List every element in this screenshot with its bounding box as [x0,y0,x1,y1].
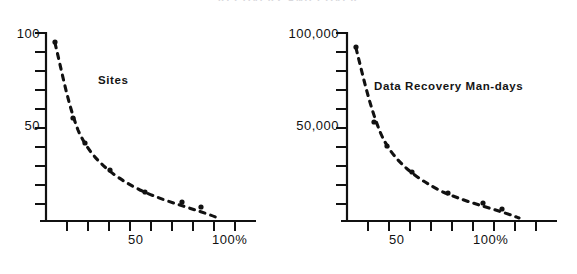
mandays-data-points [353,44,504,211]
chart-panel-mandays: 100,000 50,000 50 100% Data Recovery Man… [261,0,549,274]
mandays-x-ticks [368,221,536,231]
sites-series-label: Sites [98,74,129,86]
sites-x-axis-label-mid: 50 [128,232,143,247]
mandays-series-label: Data Recovery Man-days [374,80,523,92]
mandays-x-axis-label-max: 100% [473,232,508,247]
sites-x-axis-label-max: 100% [212,232,247,247]
mandays-curve [356,48,519,218]
mandays-y-axis-label-max: 100,000 [263,26,339,41]
mandays-x-axis-label-mid: 50 [389,232,404,247]
mandays-y-axis-label-mid: 50,000 [263,118,339,133]
sites-y-axis-label-max: 100 [2,26,40,41]
mandays-plot-svg [261,0,561,274]
sites-y-axis-label-mid: 50 [2,118,40,133]
sites-x-ticks [67,221,235,231]
sites-curve [55,43,218,218]
chart-panel-sites: 100 50 50 100% Sites [0,0,288,274]
figure-container: RECOVERY AND COVER [0,0,577,274]
